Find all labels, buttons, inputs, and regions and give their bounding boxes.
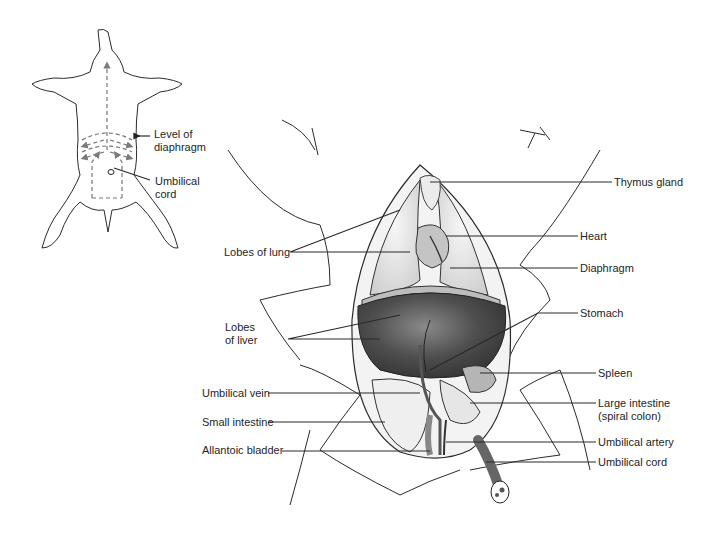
label-umbilical-cord-inset: Umbilical cord: [155, 175, 215, 201]
label-large-intestine: Large intestine (spiral colon): [598, 397, 698, 423]
label-umbilical-artery: Umbilical artery: [598, 436, 674, 449]
illustration: [0, 0, 704, 553]
label-line: of liver: [225, 334, 285, 347]
label-lobes-of-liver: Lobes of liver: [225, 321, 285, 347]
label-lobes-of-lung: Lobes of lung: [224, 246, 290, 259]
label-small-intestine: Small intestine: [202, 416, 274, 429]
label-line: diaphragm: [154, 141, 214, 154]
label-level-of-diaphragm: Level of diaphragm: [154, 128, 214, 154]
label-allantoic-bladder: Allantoic bladder: [202, 444, 283, 457]
label-diaphragm: Diaphragm: [580, 262, 634, 275]
label-umbilical-vein: Umbilical vein: [202, 387, 270, 400]
dissection-diagram: Level of diaphragm Umbilical cord Lobes …: [0, 0, 704, 553]
label-line: Level of: [154, 128, 214, 141]
label-line: (spiral colon): [598, 410, 698, 423]
label-spleen: Spleen: [598, 367, 632, 380]
body-cavity: [352, 165, 511, 503]
label-heart: Heart: [580, 230, 607, 243]
label-thymus-gland: Thymus gland: [614, 176, 683, 189]
label-umbilical-cord: Umbilical cord: [598, 456, 667, 469]
label-line: Lobes: [225, 321, 285, 334]
label-line: Umbilical: [155, 175, 215, 188]
label-line: cord: [155, 188, 215, 201]
label-stomach: Stomach: [580, 307, 623, 320]
label-line: Large intestine: [598, 397, 698, 410]
